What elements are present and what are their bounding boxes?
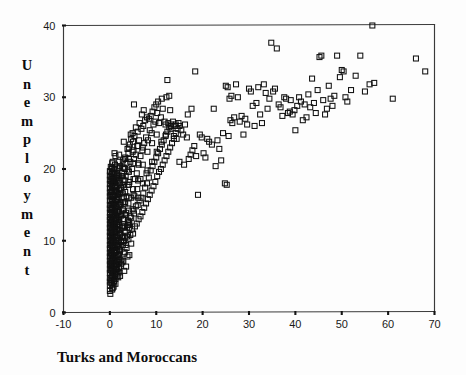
data-point-marker [282,95,287,100]
data-point-marker [324,106,329,111]
data-point-marker [370,23,375,28]
data-point-marker [235,95,240,100]
y-tick-label: 20 [43,163,55,175]
y-axis-title-letter: m [21,113,33,129]
data-point-marker [269,40,274,45]
data-point-marker [310,76,315,81]
data-point-marker [326,83,331,88]
data-point-marker [154,132,159,137]
data-point-marker [195,192,200,197]
y-axis-title-letter: n [23,243,31,259]
data-point-marker [341,69,346,74]
data-point-marker [259,121,264,126]
data-point-marker [317,55,322,60]
data-point-marker [358,53,363,58]
data-point-marker [413,56,418,61]
x-tick-label: 60 [382,318,394,330]
data-point-marker [225,85,230,90]
data-point-marker [315,88,320,93]
data-point-marker [263,90,268,95]
y-axis-title-letter: n [23,76,31,92]
data-point-marker [213,164,218,169]
y-axis-title-letter: o [23,169,30,185]
x-tick-label: 0 [107,318,113,330]
y-axis-title-letter: e [24,94,31,110]
data-point-marker [189,106,194,111]
y-tick-label: 30 [43,91,55,103]
y-axis-tick-labels: 010203040 [43,20,55,319]
data-point-marker [274,46,279,51]
data-point-marker [252,123,257,128]
frame-top-border [64,25,435,26]
data-point-marker [330,103,335,108]
y-axis-title-letter: m [21,206,33,222]
data-point-marker [221,131,226,136]
data-point-marker [267,96,272,101]
data-point-marker [423,69,428,74]
x-tick-label: 20 [197,318,209,330]
data-point-marker [211,106,216,111]
data-point-marker [321,98,326,103]
data-point-marker [319,53,324,58]
data-point-marker [241,132,246,137]
data-point-marker [193,69,198,74]
y-tick-label: 10 [43,235,55,247]
data-point-marker [245,122,250,127]
data-point-marker [261,82,266,87]
y-axis-title-letter: e [24,224,31,240]
y-axis-title: Unemployment [21,57,33,278]
x-tick-label: 30 [243,318,255,330]
y-axis-title-letter: U [22,57,33,73]
scatter-markers [107,23,427,296]
y-axis-title-letter: l [25,150,29,166]
data-point-marker [223,83,228,88]
data-point-marker [362,89,367,94]
data-point-marker [219,158,224,163]
data-point-marker [339,67,344,72]
data-point-marker [222,181,227,186]
data-point-marker [131,102,136,107]
data-point-marker [160,106,165,111]
data-point-marker [126,201,131,206]
data-point-marker [265,106,270,111]
plot-canvas: -10010203040506070 010203040 Unemploymen… [0,0,466,375]
data-point-marker [183,122,188,127]
y-tick-label: 0 [49,307,55,319]
data-point-marker [293,128,298,133]
x-axis-tick-labels: -10010203040506070 [56,318,441,330]
data-point-marker [349,88,354,93]
data-point-marker [215,138,220,143]
y-tick-label: 40 [43,20,55,32]
data-point-marker [194,154,199,159]
x-tick-label: -10 [56,318,72,330]
x-tick-label: 50 [336,318,348,330]
data-point-marker [237,119,242,124]
scatter-plot-figure: -10010203040506070 010203040 Unemploymen… [0,0,466,375]
data-point-marker [165,78,170,83]
data-point-marker [337,75,342,80]
y-axis-title-letter: t [25,262,30,278]
x-tick-label: 10 [150,318,162,330]
y-axis-title-letter: y [23,187,31,203]
data-point-marker [226,134,231,139]
data-point-marker [132,177,137,182]
data-point-marker [256,85,261,90]
data-point-marker [280,113,285,118]
data-point-marker [390,96,395,101]
data-point-marker [121,139,126,144]
x-axis-title: Turks and Moroccans [57,349,197,365]
x-tick-label: 40 [289,318,301,330]
data-point-marker [335,53,340,58]
data-point-marker [157,121,162,126]
data-point-marker [353,73,358,78]
data-point-marker [224,182,229,187]
data-point-marker [323,112,328,117]
data-point-marker [168,108,173,113]
data-point-marker [185,112,190,117]
data-point-marker [217,146,222,151]
data-point-marker [258,112,263,117]
data-point-marker [234,82,239,87]
data-point-marker [306,92,311,97]
data-point-marker [313,111,318,116]
x-tick-label: 70 [428,318,440,330]
